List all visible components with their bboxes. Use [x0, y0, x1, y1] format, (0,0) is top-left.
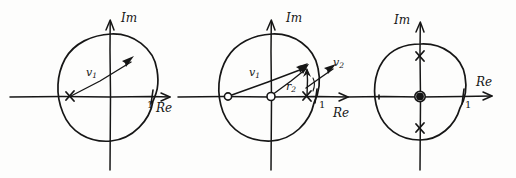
panel-1-vector-v1-arrowhead [122, 56, 134, 67]
panel-2-vector-v1-label: v1 [249, 66, 260, 80]
panel-1-imaginary-axis-label: Im [120, 11, 137, 25]
panel-3-real-axis-label: Re [475, 75, 492, 89]
panel-2-open-circle-left [224, 93, 231, 100]
panel-1-unit-circle [58, 34, 158, 141]
panel-3-imaginary-axis-label: Im [393, 13, 410, 27]
panel-2-vector-r2-label: r2 [286, 80, 296, 94]
panel-2-real-axis-label: Re [332, 106, 349, 120]
panel-2-tick-one-label: 1 [319, 99, 325, 110]
panel-3: Im Re 1 [346, 13, 492, 170]
panel-2-imaginary-axis-label: Im [285, 11, 302, 25]
panel-1-real-axis [10, 97, 170, 98]
panel-2-angle-arc [313, 78, 315, 91]
panel-1-vector-v1-label: v1 [86, 66, 97, 80]
complex-plane-figure: Im Re 1 v1 [0, 0, 516, 178]
panel-3-origin-dot [417, 93, 423, 99]
panel-1-real-axis-label: Re [155, 101, 172, 115]
panel-2: Im Re 1 v1 r2 v2 [178, 11, 349, 170]
panel-1: Im Re 1 v1 [10, 11, 172, 170]
panel-1-imaginary-axis [110, 22, 111, 170]
panel-2-real-axis [178, 97, 348, 98]
figure-canvas: Im Re 1 v1 [0, 0, 516, 178]
panel-3-tick-one-label: 1 [465, 99, 471, 110]
panel-2-vector-v2-label: v2 [333, 56, 344, 70]
panel-1-vector-v1 [71, 62, 131, 96]
panel-2-tick-one [315, 89, 317, 103]
panel-2-open-circle-origin [267, 93, 275, 101]
panel-1-tick-one-label: 1 [147, 99, 153, 110]
panel-2-unit-circle [219, 34, 320, 141]
